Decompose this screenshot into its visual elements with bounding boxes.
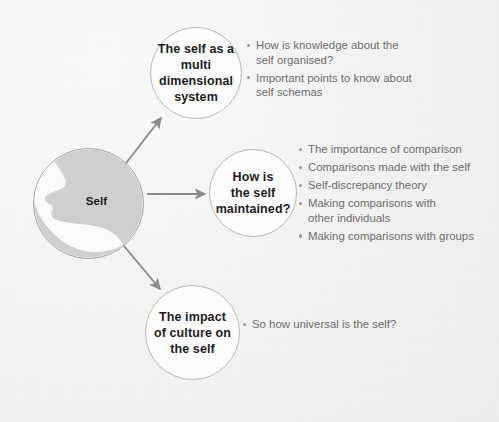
bullet-item: How is knowledge about the self organise… (246, 38, 431, 67)
bullet-item: Important points to know about self sche… (246, 71, 431, 100)
node-multi-dimensional-system-label: The self as a multi dimensional system (152, 41, 240, 105)
node-self[interactable]: Self (33, 148, 144, 259)
bullet-item: So how universal is the self? (242, 317, 442, 332)
bullet-list-self-maintained: The importance of comparison Comparisons… (298, 142, 498, 247)
node-multi-dimensional-system[interactable]: The self as a multi dimensional system (150, 27, 242, 119)
node-self-label: Self (80, 193, 114, 209)
bullet-item: Self-discrepancy theory (298, 178, 498, 193)
node-impact-of-culture[interactable]: The impact of culture on the self (145, 285, 240, 380)
bullet-item: Comparisons made with the self (298, 160, 498, 175)
node-self-maintained[interactable]: How is the self maintained? (209, 149, 297, 237)
bullet-list-impact-of-culture: So how universal is the self? (242, 317, 442, 335)
node-self-maintained-label: How is the self maintained? (210, 169, 297, 217)
bullet-list-multi-dimensional-system: How is knowledge about the self organise… (246, 38, 431, 103)
diagram-canvas: Self The self as a multi dimensional sys… (0, 0, 499, 422)
bullet-item: Making comparisons with groups (298, 229, 498, 244)
bullet-item: The importance of comparison (298, 142, 498, 157)
node-impact-of-culture-label: The impact of culture on the self (148, 309, 237, 357)
bullet-item: Making comparisons with other individual… (298, 196, 498, 225)
